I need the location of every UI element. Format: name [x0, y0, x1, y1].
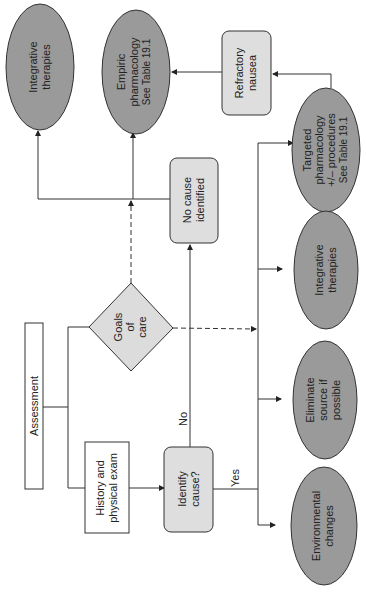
targeted-label-3: +/– procedures	[325, 113, 337, 187]
refractory-label-2: nausea	[246, 54, 258, 91]
identify-label-2: cause?	[189, 471, 201, 506]
node-assessment: Assessment	[25, 323, 43, 489]
node-integrative-top: Integrative therapies	[6, 4, 74, 130]
node-targeted: Targeted pharmacology +/– procedures See…	[292, 88, 360, 212]
integrative-top-label-1: Integrative	[27, 41, 39, 92]
nocause-label-2: identified	[194, 178, 206, 222]
targeted-label-4: See Table 19.1	[338, 116, 349, 183]
node-integrative-right: Integrative therapies	[294, 211, 358, 329]
eliminate-label-3: possible	[330, 380, 342, 420]
targeted-label-1: Targeted	[301, 129, 313, 172]
assessment-label: Assessment	[28, 376, 40, 436]
node-no-cause: No cause identified	[170, 158, 218, 243]
goals-label-1: Goals	[112, 312, 124, 341]
history-label-1: History and	[94, 460, 106, 516]
integrative-right-label-1: Integrative	[313, 244, 325, 295]
history-label-2: physical exam	[107, 453, 119, 523]
eliminate-label-1: Eliminate	[304, 377, 316, 422]
targeted-label-2: pharmacology	[313, 115, 325, 185]
node-history: History and physical exam	[85, 442, 129, 533]
empiric-label-3: See Table 19.1	[141, 38, 152, 105]
eliminate-label-2: source if	[317, 378, 329, 421]
goals-label-3: care	[136, 316, 148, 337]
node-environmental: Environmental changes	[291, 467, 357, 585]
node-empiric: Empiric pharmacology See Table 19.1	[102, 10, 170, 134]
integrative-top-label-2: therapies	[40, 44, 52, 90]
node-refractory: Refractory nausea	[222, 31, 271, 115]
empiric-label-1: Empiric	[115, 53, 127, 90]
flowchart: Assessment History and physical exam Goa…	[0, 0, 366, 592]
edge-goals-trunk-dashed	[173, 328, 256, 329]
node-goals-of-care: Goals of care	[89, 283, 173, 371]
refractory-label-1: Refractory	[233, 47, 245, 98]
edge-label-yes: Yes	[229, 469, 241, 487]
integrative-right-label-2: therapies	[326, 247, 338, 293]
identify-label-1: Identify	[176, 471, 188, 507]
goals-label-2: of	[124, 321, 136, 331]
environmental-label-1: Environmental	[310, 491, 322, 561]
node-eliminate: Eliminate source if possible	[293, 341, 357, 459]
nocause-label-1: No cause	[181, 177, 193, 223]
edge-label-no: No	[177, 412, 189, 426]
empiric-label-2: pharmacology	[128, 37, 140, 107]
node-identify-cause: Identify cause?	[164, 447, 213, 532]
environmental-label-2: changes	[323, 505, 335, 547]
